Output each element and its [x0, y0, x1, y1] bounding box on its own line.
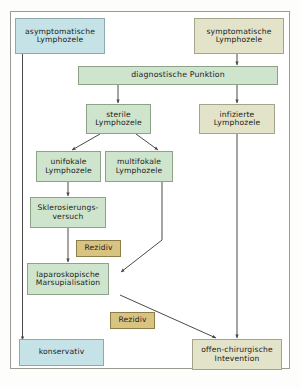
- node-diagnostische-punktion[interactable]: diagnostische Punktion: [78, 66, 278, 85]
- flowchart-figure: asymptomatische Lymphozele symptomatisch…: [0, 0, 300, 389]
- node-rezidiv-1[interactable]: Rezidiv: [76, 240, 121, 257]
- node-line-2: Lymphozele: [108, 167, 170, 176]
- node-line-1: Rezidiv: [113, 316, 152, 325]
- node-line-2: Lymphozele: [18, 36, 102, 45]
- node-line-2: versuch: [33, 213, 103, 222]
- node-laparoskopische-marsupialisation[interactable]: laparoskopische Marsupialisation: [27, 263, 109, 295]
- node-infizierte-lymphozele[interactable]: infizierte Lymphozele: [199, 104, 275, 134]
- node-sklerosierungsversuch[interactable]: Sklerosierungs- versuch: [30, 197, 106, 228]
- node-line-2: Lymphozele: [197, 36, 281, 45]
- node-unifokale-lymphozele[interactable]: unifokale Lymphozele: [36, 151, 101, 182]
- node-line-2: Lymphozele: [202, 119, 272, 128]
- node-line-1: Rezidiv: [79, 244, 118, 253]
- node-line-2: Lymphozele: [39, 167, 98, 176]
- node-line-1: konservativ: [22, 348, 101, 357]
- node-line-2: Intevention: [195, 355, 279, 364]
- node-symptomatische-lymphozele[interactable]: symptomatische Lymphozele: [194, 18, 284, 54]
- node-line-2: Lymphozele: [89, 119, 148, 128]
- node-line-2: Marsupialisation: [30, 279, 106, 288]
- node-rezidiv-2[interactable]: Rezidiv: [110, 312, 155, 329]
- node-multifokale-lymphozele[interactable]: multifokale Lymphozele: [105, 151, 173, 182]
- node-sterile-lymphozele[interactable]: sterile Lymphozele: [86, 104, 151, 134]
- node-konservativ[interactable]: konservativ: [19, 339, 104, 366]
- node-asymptomatische-lymphozele[interactable]: asymptomatische Lymphozele: [15, 18, 105, 54]
- node-offen-chirurgische-intevention[interactable]: offen-chirurgische Intevention: [192, 339, 282, 370]
- node-line-1: diagnostische Punktion: [81, 71, 275, 80]
